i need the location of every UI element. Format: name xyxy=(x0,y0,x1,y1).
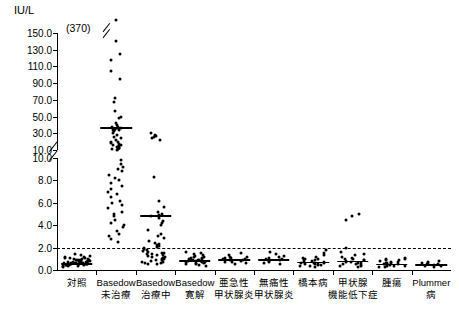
data-point xyxy=(122,165,125,168)
x-axis-tick-label-line: Basedow xyxy=(136,277,175,289)
data-point xyxy=(88,255,91,258)
data-point xyxy=(109,221,112,224)
median-line xyxy=(258,259,290,260)
x-axis-tick-label: 対照 xyxy=(67,277,87,289)
data-point xyxy=(146,228,149,231)
data-point xyxy=(115,19,118,22)
data-point xyxy=(160,224,163,227)
data-point xyxy=(116,192,119,195)
x-axis-tick-mark xyxy=(175,270,176,275)
y-axis-tick-mark xyxy=(53,180,57,181)
data-point xyxy=(149,260,152,263)
data-point xyxy=(119,199,122,202)
y-axis-tick-mark xyxy=(53,270,57,271)
data-point xyxy=(110,181,113,184)
data-point xyxy=(357,213,360,216)
data-point xyxy=(162,236,165,239)
data-point xyxy=(115,148,118,151)
y-axis-tick-mark xyxy=(53,83,57,84)
data-point xyxy=(108,235,111,238)
x-axis-tick-label: 橋本病 xyxy=(298,277,328,289)
y-axis-tick-label: 130.0 xyxy=(27,44,52,55)
data-point xyxy=(121,170,124,173)
median-line xyxy=(100,127,132,128)
y-axis-tick-mark xyxy=(53,33,57,34)
data-point xyxy=(107,207,110,210)
data-point xyxy=(339,265,342,268)
data-point xyxy=(204,264,207,267)
data-point xyxy=(342,262,345,265)
data-point xyxy=(314,255,317,258)
data-point xyxy=(230,261,233,264)
x-axis-tick-label-line: Basedow xyxy=(97,277,136,289)
data-point xyxy=(363,253,366,256)
data-point xyxy=(112,143,115,146)
median-line xyxy=(376,264,408,265)
data-point xyxy=(73,253,76,256)
x-axis-tick-label-line: 機能低下症 xyxy=(328,289,378,301)
data-point xyxy=(116,133,119,136)
x-axis-tick-mark xyxy=(372,270,373,275)
median-line xyxy=(140,215,172,216)
data-point xyxy=(109,69,112,72)
y-axis-tick-label: 70.0 xyxy=(33,94,52,105)
data-point xyxy=(354,254,357,257)
data-point xyxy=(113,100,116,103)
median-line xyxy=(416,264,448,265)
x-axis-tick-label: 無痛性甲状腺炎 xyxy=(254,277,294,300)
data-point xyxy=(156,235,159,238)
data-point xyxy=(314,265,317,268)
y-axis-tick-mark xyxy=(53,133,57,134)
x-axis-tick-mark xyxy=(136,270,137,275)
x-axis-tick-label: 甲状腺機能低下症 xyxy=(328,277,378,300)
data-point xyxy=(63,256,66,259)
median-line xyxy=(61,263,93,264)
data-point xyxy=(157,217,160,220)
data-point xyxy=(79,254,82,257)
x-axis-tick-label: 亜急性甲状腺炎 xyxy=(214,277,254,300)
data-point xyxy=(160,251,163,254)
data-point xyxy=(113,109,116,112)
y-axis-tick-mark xyxy=(53,225,57,226)
x-axis-tick-label-line: 病 xyxy=(412,289,450,301)
data-point xyxy=(150,256,153,259)
x-axis-tick-mark xyxy=(293,270,294,275)
data-point xyxy=(156,253,159,256)
x-axis-tick-label-line: 無痛性 xyxy=(254,277,294,289)
median-line xyxy=(219,259,251,260)
y-axis-tick-label: 50.0 xyxy=(33,111,52,122)
data-point xyxy=(158,138,161,141)
median-line xyxy=(179,260,211,261)
data-point xyxy=(320,264,323,267)
data-point xyxy=(303,263,306,266)
data-point xyxy=(110,196,113,199)
data-point xyxy=(146,255,149,258)
data-point xyxy=(121,204,124,207)
data-point xyxy=(72,258,75,261)
data-point xyxy=(120,185,123,188)
x-axis-tick-label-line: 甲状腺 xyxy=(328,277,378,289)
data-point xyxy=(197,263,200,266)
data-point xyxy=(113,218,116,221)
data-point xyxy=(378,260,381,263)
data-point xyxy=(114,40,117,43)
data-point xyxy=(117,168,120,171)
axis-line xyxy=(57,33,58,150)
data-point xyxy=(118,128,121,131)
y-axis-tick-label: 30.0 xyxy=(33,128,52,139)
x-axis-tick-label: Plummer病 xyxy=(412,277,450,300)
data-point xyxy=(340,251,343,254)
data-point xyxy=(119,137,122,140)
data-point xyxy=(244,262,247,265)
data-point xyxy=(316,258,319,261)
data-point xyxy=(110,58,113,61)
x-axis-tick-label-line: 甲状腺炎 xyxy=(214,289,254,301)
x-axis-tick-label-line: 亜急性 xyxy=(214,277,254,289)
x-axis-tick-label: Basedow寛解 xyxy=(175,277,214,300)
y-axis-tick-label: 90.0 xyxy=(33,78,52,89)
y-axis-tick-mark xyxy=(53,50,57,51)
data-point xyxy=(69,257,72,260)
data-point xyxy=(155,259,158,262)
x-axis-tick-mark xyxy=(254,270,255,275)
data-point xyxy=(360,264,363,267)
